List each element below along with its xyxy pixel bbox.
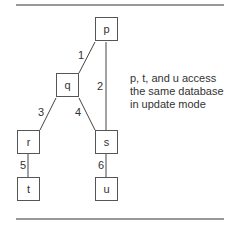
- edge-label-6: 6: [98, 160, 104, 171]
- node-label: t: [27, 183, 30, 195]
- note-line-2: the same database: [130, 85, 240, 98]
- edge-label-2: 2: [97, 81, 103, 92]
- node-s: s: [95, 130, 118, 154]
- node-label: u: [103, 183, 109, 195]
- node-label: p: [103, 23, 109, 35]
- annotation-note: p, t, and u access the same database in …: [130, 72, 240, 111]
- edge-label-1: 1: [78, 50, 84, 61]
- edge-4: [79, 98, 95, 130]
- node-q: q: [56, 73, 79, 97]
- node-label: q: [64, 79, 70, 91]
- edge-label-3: 3: [38, 107, 44, 118]
- note-line-3: in update mode: [130, 98, 240, 111]
- note-line-1: p, t, and u access: [130, 72, 240, 85]
- node-label: s: [104, 136, 110, 148]
- node-label: r: [27, 136, 31, 148]
- node-r: r: [17, 130, 40, 154]
- edge-label-5: 5: [20, 160, 26, 171]
- edge-label-4: 4: [75, 107, 81, 118]
- node-p: p: [95, 17, 118, 41]
- node-u: u: [95, 177, 118, 201]
- node-t: t: [17, 177, 40, 201]
